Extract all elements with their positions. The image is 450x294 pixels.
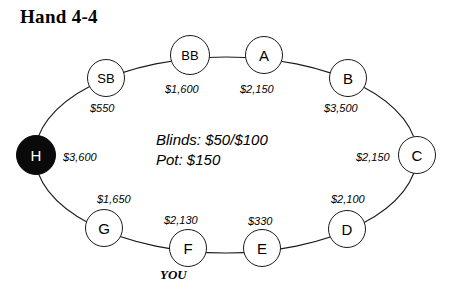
seat-a[interactable]: A [245, 36, 283, 74]
seat-e-label: E [257, 241, 267, 256]
you-marker: YOU [160, 267, 187, 283]
pot-text: Pot: $150 [156, 150, 268, 170]
seat-d-label: D [342, 222, 353, 237]
seat-sb[interactable]: SB [87, 59, 125, 97]
seat-c[interactable]: C [398, 136, 436, 174]
seat-b-label: B [343, 71, 353, 86]
seat-h[interactable]: H [16, 135, 56, 175]
seat-e-stack: $330 [248, 216, 272, 227]
seat-sb-stack: $550 [90, 103, 114, 114]
blinds-text: Blinds: $50/$100 [156, 130, 268, 150]
seat-bb[interactable]: BB [170, 35, 210, 75]
seat-f-label: F [183, 241, 192, 256]
seat-a-stack: $2,150 [240, 84, 274, 95]
seat-f-stack: $2,130 [164, 215, 198, 226]
seat-d-stack: $2,100 [331, 194, 365, 205]
seat-sb-label: SB [97, 72, 114, 85]
seat-h-label: H [31, 148, 42, 163]
seat-b-stack: $3,500 [324, 103, 358, 114]
seat-c-label: C [412, 148, 423, 163]
seat-g-stack: $1,650 [97, 194, 131, 205]
center-info: Blinds: $50/$100 Pot: $150 [156, 130, 268, 171]
seat-bb-stack: $1,600 [165, 84, 199, 95]
seat-g-label: G [98, 221, 110, 236]
seat-g[interactable]: G [85, 209, 123, 247]
seat-f[interactable]: F [169, 229, 207, 267]
seat-b[interactable]: B [329, 59, 367, 97]
seat-d[interactable]: D [328, 210, 366, 248]
poker-hand-diagram: Hand 4-4 SB$550BB$1,600A$2,150B$3,500C$2… [0, 0, 450, 294]
seat-bb-label: BB [181, 49, 198, 62]
seat-a-label: A [259, 48, 269, 63]
seat-e[interactable]: E [243, 229, 281, 267]
seat-h-stack: $3,600 [63, 152, 97, 163]
seat-c-stack: $2,150 [356, 152, 390, 163]
